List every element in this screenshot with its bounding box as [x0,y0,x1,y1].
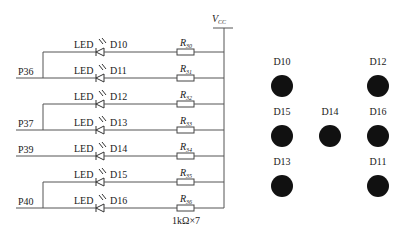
resistor-label: R36 [179,193,192,205]
port-label: P37 [18,118,34,129]
led-dot-icon [367,75,389,97]
led-schematic: VCC LEDD10R30LEDD11R31LEDD12R32LEDD13R33… [0,0,401,236]
led-indicator-label: D14 [321,106,338,117]
resistor-icon [177,127,194,133]
resistor-label: R32 [179,89,192,101]
led-indicator-label: D12 [369,56,386,67]
led-indicator: D11 [367,156,389,197]
led-indicator-label: D16 [369,106,386,117]
led-dot-icon [271,175,293,197]
resistor-label: R31 [179,63,192,75]
led-indicator: D12 [367,56,389,97]
port-lines: P36P37P39P40 [16,52,43,208]
led-dot-icon [319,125,341,147]
led-rows: LEDD10R30LEDD11R31LEDD12R32LEDD13R33LEDD… [43,37,224,212]
vcc-label: VCC [212,13,227,25]
diode-label: D13 [110,117,127,128]
led-label: LED [74,65,93,76]
led-indicator: D13 [271,156,293,197]
resistor-icon [177,153,194,159]
resistor-label: R35 [179,167,192,179]
led-indicator-label: D13 [273,156,290,167]
resistor-icon [177,75,194,81]
diode-label: D15 [110,169,127,180]
led-label: LED [74,195,93,206]
diode-label: D14 [110,143,127,154]
led-diode-icon [96,64,106,82]
led-label: LED [74,117,93,128]
led-label: LED [74,91,93,102]
led-diode-icon [96,116,106,134]
diode-label: D11 [110,65,127,76]
resistor-icon [177,179,194,185]
port-label: P36 [18,66,34,77]
led-diode-icon [96,142,106,160]
led-indicator: D10 [271,56,293,97]
led-row: LEDD13R33 [43,115,224,134]
port-label: P40 [18,196,34,207]
led-layout-panel: D10D12D15D14D16D13D11 [271,56,389,197]
led-indicator: D15 [271,106,293,147]
led-indicator: D14 [319,106,341,147]
resistor-label: R33 [179,115,192,127]
resistor-icon [177,101,194,107]
led-indicator-label: D11 [370,156,387,167]
led-row: LEDD10R30 [43,37,224,56]
resistor-label: R34 [179,141,192,153]
resistor-icon [177,205,194,211]
led-label: LED [74,143,93,154]
port-p36: P36 [16,52,43,78]
led-row: LEDD16R36 [43,193,224,212]
led-label: LED [74,169,93,180]
led-diode-icon [96,194,106,212]
resistor-note: 1kΩ×7 [172,215,200,226]
led-row: LEDD14R34 [43,141,224,160]
led-dot-icon [367,175,389,197]
led-row: LEDD12R32 [43,89,224,108]
led-indicator-label: D10 [273,56,290,67]
diode-label: D16 [110,195,127,206]
led-diode-icon [96,38,106,56]
led-row: LEDD15R35 [43,167,224,186]
led-diode-icon [96,168,106,186]
vcc-supply: VCC [212,13,233,208]
led-diode-icon [96,90,106,108]
led-dot-icon [367,125,389,147]
led-indicator-label: D15 [273,106,290,117]
led-dot-icon [271,125,293,147]
led-dot-icon [271,75,293,97]
port-label: P39 [18,144,34,155]
port-p40: P40 [16,182,43,208]
led-label: LED [74,39,93,50]
diode-label: D12 [110,91,127,102]
led-indicator: D16 [367,106,389,147]
port-p37: P37 [16,104,43,130]
resistor-icon [177,49,194,55]
diode-label: D10 [110,39,127,50]
led-row: LEDD11R31 [43,63,224,82]
port-p39: P39 [16,144,43,156]
resistor-label: R30 [179,37,192,49]
